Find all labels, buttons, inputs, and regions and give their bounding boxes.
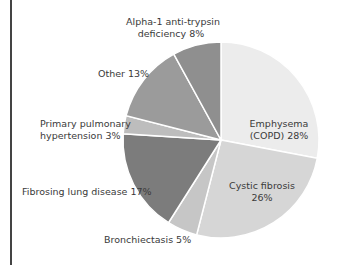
label-emphysema-line1: Emphysema bbox=[244, 118, 314, 130]
label-bronchiectasis: Bronchiectasis 5% bbox=[104, 234, 191, 246]
label-cystic-fibrosis: Cystic fibrosis 26% bbox=[222, 180, 302, 204]
label-cystic-line1: Cystic fibrosis bbox=[222, 180, 302, 192]
label-alpha-line1: Alpha-1 anti-trypsin bbox=[126, 16, 216, 28]
label-bronchiectasis-text: Bronchiectasis 5% bbox=[104, 234, 191, 245]
label-other: Other 13% bbox=[98, 68, 149, 80]
label-alpha-line2: deficiency 8% bbox=[126, 28, 216, 40]
label-cystic-line2: 26% bbox=[222, 192, 302, 204]
label-primary-pulmonary: Primary pulmonary hypertension 3% bbox=[40, 118, 120, 142]
label-primary-line1: Primary pulmonary bbox=[40, 118, 120, 130]
label-other-text: Other 13% bbox=[98, 68, 149, 79]
label-primary-line2: hypertension 3% bbox=[40, 130, 120, 142]
label-emphysema: Emphysema (COPD) 28% bbox=[244, 118, 314, 142]
label-fibrosing-text: Fibrosing lung disease 17% bbox=[22, 186, 152, 197]
label-alpha1: Alpha-1 anti-trypsin deficiency 8% bbox=[126, 16, 216, 40]
label-emphysema-line2: (COPD) 28% bbox=[244, 130, 314, 142]
label-fibrosing: Fibrosing lung disease 17% bbox=[22, 186, 152, 198]
